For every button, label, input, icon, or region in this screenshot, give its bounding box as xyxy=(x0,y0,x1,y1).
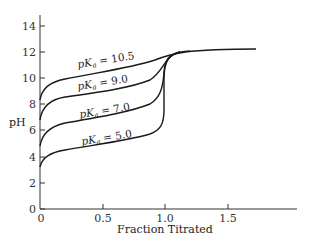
titration-curves xyxy=(40,49,256,167)
x-tick-label: 0 xyxy=(38,212,45,225)
y-tick-label: 10 xyxy=(22,72,36,85)
y-tick-label: 14 xyxy=(22,20,36,33)
curve-pka-10-5 xyxy=(40,49,256,100)
label-pka-5-0: pKa = 5.0 xyxy=(80,127,133,149)
y-tick-label: 12 xyxy=(22,46,36,59)
x-axis-label: Fraction Titrated xyxy=(117,223,213,236)
label-pka-10-5: pKa = 10.5 xyxy=(76,49,135,72)
curve-labels: pKa = 10.5 pKa = 9.0 pKa = 7.0 pKa = 5.0 xyxy=(76,49,135,149)
y-tick-label: 0 xyxy=(29,203,36,216)
y-tick-label: 4 xyxy=(29,151,36,164)
y-tick-label: 6 xyxy=(29,124,36,137)
x-tick-label: 1.5 xyxy=(219,212,237,225)
titration-chart: 0 2 4 6 8 10 12 14 0 0.5 1.0 1.5 Fractio… xyxy=(0,0,310,243)
y-axis-label: pH xyxy=(9,116,26,129)
label-pka-7-0: pKa = 7.0 xyxy=(78,100,131,122)
y-tick-label: 8 xyxy=(29,98,36,111)
x-tick-label: 0.5 xyxy=(94,212,112,225)
x-ticks: 0 0.5 1.0 1.5 xyxy=(38,204,237,225)
y-tick-label: 2 xyxy=(29,177,36,190)
